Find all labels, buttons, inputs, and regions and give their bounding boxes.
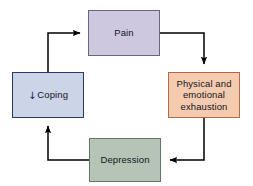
node-pain[interactable]: Pain <box>88 10 160 56</box>
node-coping-label: Coping <box>37 89 68 101</box>
edge-depression-to-coping <box>48 126 89 160</box>
edge-coping-to-pain <box>48 33 80 72</box>
decrease-down-arrow-icon: ↓ <box>28 91 36 101</box>
node-exhaustion[interactable]: Physical and emotional exhaustion <box>168 72 240 118</box>
cycle-diagram: Pain Physical and emotional exhaustion D… <box>0 0 253 186</box>
node-coping[interactable]: ↓ Coping <box>12 72 84 118</box>
edge-pain-to-exhaustion <box>160 33 204 64</box>
node-depression-label: Depression <box>100 154 149 166</box>
node-exhaustion-label: Physical and emotional exhaustion <box>176 78 231 113</box>
node-pain-label: Pain <box>114 27 133 39</box>
edge-exhaustion-to-depression <box>170 118 204 160</box>
coping-inner: ↓ Coping <box>28 89 68 101</box>
node-depression[interactable]: Depression <box>89 138 161 182</box>
